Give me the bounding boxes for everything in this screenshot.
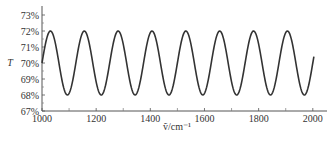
- y-axis-ticks: 67%68%69%70%71%72%73%: [21, 10, 45, 117]
- x-tick-label: 1600: [194, 113, 214, 124]
- y-tick-label: 73%: [21, 10, 39, 21]
- y-axis-label: T: [7, 57, 14, 68]
- x-tick-label: 1000: [32, 113, 52, 124]
- y-tick-label: 68%: [21, 90, 39, 101]
- y-tick-label: 71%: [21, 42, 39, 53]
- y-tick-label: 69%: [21, 74, 39, 85]
- x-tick-label: 2000: [303, 113, 323, 124]
- x-tick-label: 1800: [249, 113, 269, 124]
- transmittance-curve: [42, 31, 314, 95]
- x-axis-label: ṽ/cm⁻¹: [163, 121, 191, 132]
- x-tick-label: 1400: [140, 113, 160, 124]
- x-tick-label: 1200: [86, 113, 106, 124]
- y-tick-label: 70%: [21, 58, 39, 69]
- y-tick-label: 72%: [21, 26, 39, 37]
- transmittance-chart: 67%68%69%70%71%72%73% 100012001400160018…: [0, 0, 333, 143]
- axes: [42, 6, 327, 111]
